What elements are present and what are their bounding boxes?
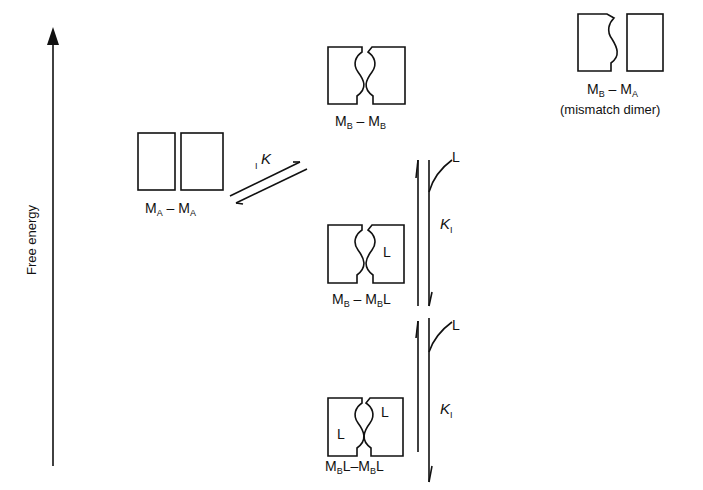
monomer-symbol: M bbox=[178, 200, 190, 216]
mismatch-dimer-note: (mismatch dimer) bbox=[560, 103, 660, 116]
monomer-symbol: M bbox=[587, 81, 599, 97]
monomer-symbol: M bbox=[358, 458, 370, 474]
monomer-symbol: M bbox=[620, 81, 632, 97]
ligand-symbol: L bbox=[376, 458, 384, 474]
bond-separator: – bbox=[163, 200, 179, 216]
mb-mb-label: MB – MB bbox=[335, 114, 386, 131]
mismatch-dimer-label: MB – MA bbox=[587, 82, 638, 99]
state-subscript: A bbox=[190, 208, 196, 218]
monomer-symbol: M bbox=[325, 458, 337, 474]
bound-ligand-label: L bbox=[383, 245, 391, 259]
ma-ma-label: MA – MA bbox=[145, 201, 196, 218]
conformational-equilibrium-arrows bbox=[230, 162, 307, 204]
bound-ligand-left-label: L bbox=[337, 427, 345, 441]
binding-constant-label-1: KI bbox=[440, 216, 453, 235]
ligand-label-2: L bbox=[452, 318, 460, 332]
state-subscript: A bbox=[632, 89, 638, 99]
mismatch-dimer-shape bbox=[578, 14, 663, 71]
monomer-symbol: M bbox=[368, 113, 380, 129]
monomer-symbol: M bbox=[365, 291, 377, 307]
ligand-symbol: L bbox=[383, 291, 391, 307]
mb-mbl-label: MB – MBL bbox=[332, 292, 391, 309]
ligand-label-1: L bbox=[452, 150, 460, 164]
mb-mbl-dimer-shape bbox=[328, 225, 404, 283]
monomer-symbol: M bbox=[332, 291, 344, 307]
k-prefix: I bbox=[255, 162, 258, 171]
bond-separator: – bbox=[605, 81, 621, 97]
ma-ma-dimer-shape bbox=[138, 133, 223, 190]
monomer-symbol: M bbox=[145, 200, 157, 216]
monomer-symbol: M bbox=[335, 113, 347, 129]
diagram-canvas bbox=[0, 0, 703, 490]
free-energy-axis-label: Free energy bbox=[24, 200, 39, 280]
bond-separator: – bbox=[350, 291, 366, 307]
binding-constant-label-2: KI bbox=[440, 401, 453, 420]
bound-ligand-right-label: L bbox=[381, 405, 389, 419]
mbl-mbl-label: MBL–MBL bbox=[325, 459, 384, 476]
axis-arrowhead-icon bbox=[47, 27, 59, 45]
bond-separator: – bbox=[353, 113, 369, 129]
mb-mb-dimer-shape bbox=[328, 47, 405, 104]
state-subscript: B bbox=[380, 121, 386, 131]
conformational-constant-label: K bbox=[261, 151, 271, 166]
